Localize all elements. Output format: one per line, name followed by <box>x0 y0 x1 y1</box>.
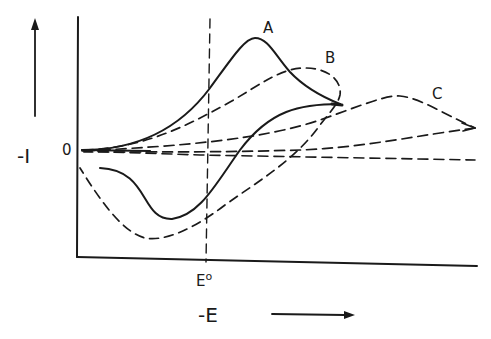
curve-a-label: A <box>263 21 273 36</box>
zero-tick-label: 0 <box>62 143 72 158</box>
y-direction-arrow <box>31 18 39 116</box>
x-axis-label: -E <box>198 305 218 325</box>
y-axis-label: -I <box>17 146 30 166</box>
y-axis <box>77 17 78 257</box>
curve-c-arrowhead <box>462 123 475 131</box>
curve-c-label: C <box>432 87 442 102</box>
e-zero-marker-line <box>206 19 210 262</box>
curve-b-label: B <box>325 51 335 66</box>
curve-b-forward <box>80 68 340 239</box>
curve-a-end-tick <box>332 104 342 105</box>
voltammogram-figure <box>0 0 491 339</box>
curve-a-reverse <box>100 104 340 219</box>
e-zero-label-sup: o <box>205 270 212 283</box>
x-axis <box>77 257 477 266</box>
x-direction-arrow <box>272 311 355 319</box>
e-zero-label: Eo <box>196 271 212 289</box>
curve-a-forward <box>82 38 340 150</box>
curve-c-forward <box>84 96 475 151</box>
